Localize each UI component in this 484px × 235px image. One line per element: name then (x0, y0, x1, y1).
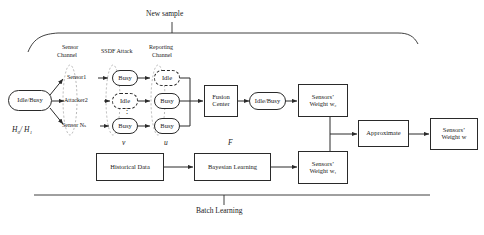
approximate-node[interactable]: Approximate (358, 120, 409, 147)
reporting-row3-label: Busy (160, 123, 173, 130)
attacker2-label: Attacker2 (64, 97, 88, 104)
fusion-center-node[interactable]: Fusion Center (204, 85, 238, 117)
bayesian-learning-label: Bayesian Learning (208, 164, 257, 171)
ssdf-node-row1[interactable]: Busy (112, 70, 138, 86)
reporting-row2-label: Busy (160, 98, 173, 105)
reporting-row1-label: Idle (162, 75, 172, 82)
reporting-node-row1[interactable]: Idle (154, 70, 180, 86)
ssdf-attack-header: SSDF Attack (101, 48, 133, 55)
ssdf-node-row3[interactable]: Busy (112, 118, 138, 134)
sensors-weight-w1-node[interactable]: Sensors’ Weight w₁ (298, 151, 348, 184)
historical-data-node[interactable]: Historical Data (96, 153, 164, 181)
sensor-channel-header-line1: Sensor (62, 44, 78, 51)
signal-f-label: F (228, 139, 233, 147)
sensors-weight-w2-node[interactable]: Sensors’ Weight w₂ (298, 84, 348, 117)
signal-v-label: v (122, 139, 125, 147)
sensor-channel-header-line2: Channel (57, 52, 77, 59)
signal-u-label: u (164, 139, 168, 147)
ssdf-row1-label: Busy (118, 75, 131, 82)
historical-data-label: Historical Data (110, 164, 150, 171)
reporting-node-row2[interactable]: Busy (154, 93, 180, 109)
diagram-connectors (0, 0, 484, 235)
bayesian-learning-node[interactable]: Bayesian Learning (194, 153, 271, 181)
reporting-channel-header-line1: Reporting (149, 44, 173, 51)
sensors-weight-w-line2: Weight w (442, 134, 467, 141)
sensor1-label: Sensor1 (67, 74, 86, 81)
ssdf-vertical-ellipsis: ⋮ (123, 110, 131, 112)
fusion-output-node[interactable]: Idle/Busy (249, 92, 286, 110)
batch-learning-caption: Batch Learning (196, 207, 242, 215)
sensor-n-label: Sensor Nₛ (62, 122, 86, 129)
source-idle-busy-label: Idle/Busy (17, 97, 42, 104)
sensors-weight-w1-line2: Weight w₁ (309, 168, 336, 175)
ssdf-row3-label: Busy (118, 123, 131, 130)
reporting-channel-header-line2: Channel (152, 52, 172, 59)
sensors-weight-w2-line2: Weight w₂ (309, 101, 336, 108)
new-sample-caption: New sample (146, 10, 183, 18)
hypothesis-label: H₀/ H₁ (12, 126, 32, 134)
ssdf-row2-label: Idle (120, 98, 130, 105)
sensors-weight-w-node[interactable]: Sensors’ Weight w (430, 118, 478, 150)
approximate-label: Approximate (366, 130, 400, 137)
reporting-node-row3[interactable]: Busy (154, 118, 180, 134)
fusion-output-label: Idle/Busy (255, 98, 280, 105)
fusion-center-line2: Center (212, 101, 229, 108)
source-idle-busy-node[interactable]: Idle/Busy (8, 90, 52, 111)
